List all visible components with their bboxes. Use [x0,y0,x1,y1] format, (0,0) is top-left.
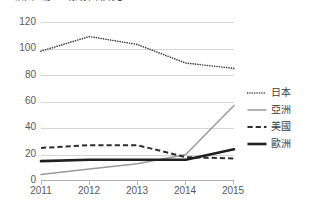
y-tick-label: 0 [2,175,36,185]
y-tick-label: 100 [2,43,36,53]
x-tick-label: 2014 [165,185,205,196]
plot-area [41,22,234,181]
chart-legend: 日本 亞洲 美國 歐洲 [247,84,313,152]
y-tick-label: 60 [2,96,36,106]
legend-swatch-dotted-icon [247,88,267,98]
series-canvas [41,22,234,181]
legend-label: 亞洲 [271,104,291,115]
x-tick-label: 2013 [117,185,157,196]
series-line-asia [41,105,234,174]
legend-label: 美國 [271,121,291,132]
y-axis-labels: 120 100 80 60 40 20 0 [0,0,36,181]
y-tick-label: 20 [2,149,36,159]
x-axis-labels: 2011 2012 2013 2014 2015 [41,185,234,199]
legend-item-usa[interactable]: 美國 [247,118,313,135]
x-tick-label: 2015 [213,185,253,196]
y-tick-label: 80 [2,70,36,80]
y-tick-label: 40 [2,122,36,132]
legend-item-japan[interactable]: 日本 [247,84,313,101]
series-line-japan [41,37,234,69]
y-tick-label: 120 [2,17,36,27]
legend-item-europe[interactable]: 歐洲 [247,135,313,152]
legend-item-asia[interactable]: 亞洲 [247,101,313,118]
chart-title-clipped: 亞洲市場區域銷售佔比 [0,0,316,8]
legend-swatch-solid-thick-icon [247,139,267,149]
legend-label: 日本 [271,87,291,98]
series-line-europe [41,149,234,161]
legend-label: 歐洲 [271,138,291,149]
x-tick-label: 2012 [69,185,109,196]
legend-swatch-dashed-icon [247,122,267,132]
legend-swatch-solid-thin-icon [247,105,267,115]
chart-root: 亞洲市場區域銷售佔比 120 100 80 60 40 20 0 2011 [0,0,316,216]
x-tick-label: 2011 [21,185,61,196]
